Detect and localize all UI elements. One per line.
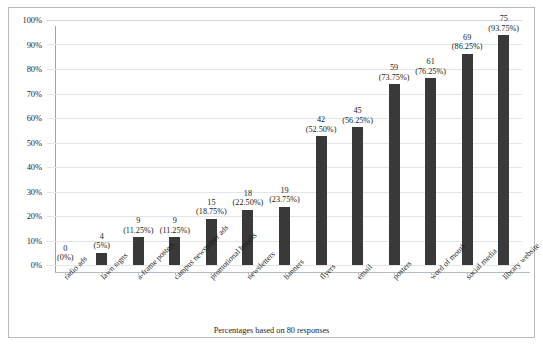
bar [96,253,107,265]
bar-data-label: 75(93.75%) [474,14,534,33]
bar-count-value: 9 [145,216,205,225]
bar-percent-value: (23.75%) [255,195,315,204]
bar [462,54,473,265]
y-axis-tick-label: 70% [9,89,42,99]
gridline [47,94,522,95]
bar-percent-value: (52.50%) [291,125,351,134]
y-axis-tick-label: 60% [9,113,42,123]
bar [133,237,144,265]
bar-percent-value: (11.25%) [145,226,205,235]
bar [279,207,290,265]
bar-data-label: 9(11.25%) [145,216,205,235]
y-axis-tick-label: 20% [9,211,42,221]
bar-percent-value: (5%) [72,241,132,250]
y-axis-tick-label: 100% [9,15,42,25]
bar-count-value: 19 [255,186,315,195]
bar-data-label: 45(56.25%) [328,106,388,125]
y-axis-tick-label: 30% [9,187,42,197]
gridline [47,118,522,119]
bar-data-label: 69(86.25%) [437,33,497,52]
bar [316,136,327,265]
bar-percent-value: (56.25%) [328,116,388,125]
chart-frame: 0%10%20%30%40%50%60%70%80%90%100% 0(0%)4… [8,7,535,338]
bar-count-value: 69 [437,33,497,42]
y-axis-tick-label: 40% [9,162,42,172]
bar-percent-value: (86.25%) [437,42,497,51]
bar [389,84,400,265]
y-axis-tick-label: 50% [9,138,42,148]
gridline [47,143,522,144]
bar-percent-value: (76.25%) [401,67,461,76]
bar-percent-value: (18.75%) [181,207,241,216]
bar-count-value: 61 [401,57,461,66]
bar-count-value: 45 [328,106,388,115]
y-axis-line [55,26,56,273]
gridline [47,167,522,168]
bar-data-label: 19(23.75%) [255,186,315,205]
bar [425,78,436,265]
y-axis-tick-label: 90% [9,40,42,50]
y-axis-tick-label: 80% [9,64,42,74]
bar [498,35,509,265]
bar-data-label: 61(76.25%) [401,57,461,76]
bar-count-value: 75 [474,14,534,23]
gridline [47,20,522,21]
bar-percent-value: (93.75%) [474,24,534,33]
bar [352,127,363,265]
chart-caption: Percentages based on 80 responses [9,326,534,335]
